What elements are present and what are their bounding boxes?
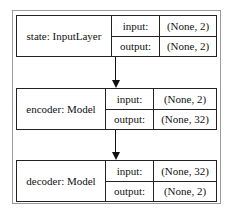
node-name: decoder: Model (17, 161, 106, 201)
node-name: state: InputLayer (17, 16, 112, 56)
output-shape: (None, 32) (154, 110, 216, 130)
input-shape: (None, 2) (160, 16, 216, 36)
node-name: encoder: Model (17, 89, 106, 129)
input-label: input: (112, 16, 160, 36)
output-row: output: (None, 2) (112, 36, 216, 57)
node-state-inputlayer: state: InputLayer input: (None, 2) outpu… (16, 15, 217, 57)
input-row: input: (None, 2) (106, 89, 216, 109)
arrow-head-icon (112, 80, 120, 88)
node-decoder-model: decoder: Model input: (None, 32) output:… (16, 160, 217, 202)
input-label: input: (106, 89, 154, 109)
output-row: output: (None, 32) (106, 109, 216, 130)
output-row: output: (None, 2) (106, 181, 216, 202)
output-shape: (None, 2) (160, 37, 216, 57)
node-encoder-model: encoder: Model input: (None, 2) output: … (16, 88, 217, 130)
node-ports: input: (None, 2) output: (None, 32) (106, 89, 216, 129)
node-ports: input: (None, 32) output: (None, 2) (106, 161, 216, 201)
input-row: input: (None, 32) (106, 161, 216, 181)
output-shape: (None, 2) (154, 182, 216, 202)
input-shape: (None, 32) (154, 161, 216, 181)
arrow-head-icon (112, 152, 120, 160)
edge-line (115, 130, 116, 153)
output-label: output: (106, 182, 154, 202)
input-label: input: (106, 161, 154, 181)
output-label: output: (106, 110, 154, 130)
input-shape: (None, 2) (154, 89, 216, 109)
input-row: input: (None, 2) (112, 16, 216, 36)
output-label: output: (112, 37, 160, 57)
edge-line (115, 57, 116, 81)
node-ports: input: (None, 2) output: (None, 2) (112, 16, 216, 56)
